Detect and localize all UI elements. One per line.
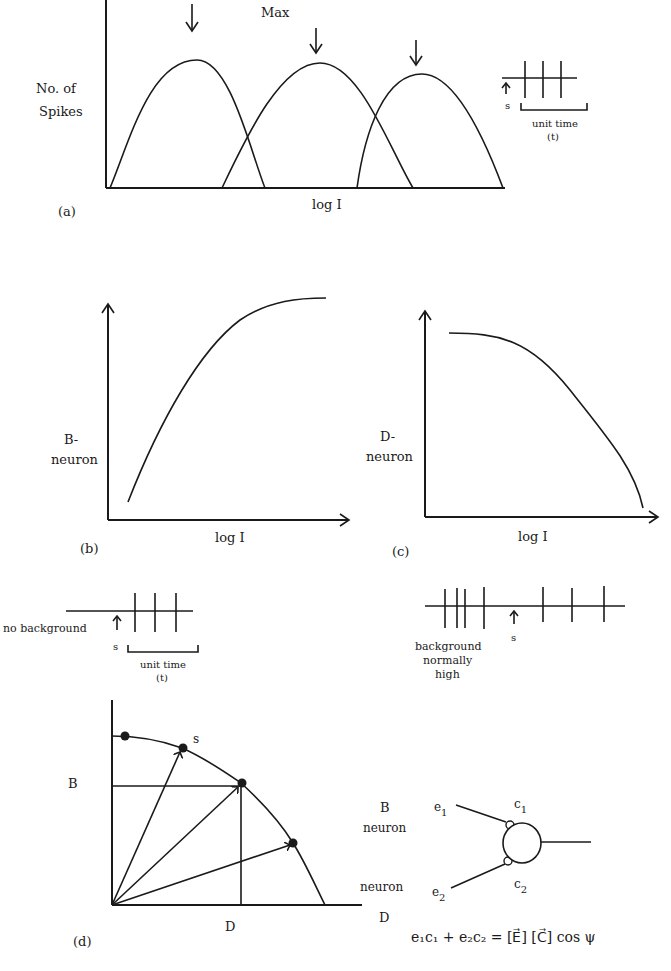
tuning-curve-2 — [222, 63, 413, 188]
max-arrow-1 — [186, 4, 198, 31]
unit-time-label: unit time — [140, 659, 186, 670]
panel-c: D- neuron log I (c) — [366, 311, 658, 559]
d-neuron-label-line2: neuron — [360, 880, 404, 894]
background-label-line3: high — [435, 668, 460, 681]
response-arc — [112, 736, 325, 905]
d-neuron-curve — [449, 333, 643, 508]
max-arrow-2 — [310, 28, 322, 53]
vector-arrow-low — [112, 845, 290, 905]
stimulus-label: s — [511, 632, 516, 643]
no-background-label: no background — [3, 622, 87, 635]
panel-b-caption: (b) — [80, 541, 98, 556]
d-neuron-label-line1: D — [379, 910, 389, 925]
neuron-schematic: B neuron D neuron e1 c1 c2 e2 e₁c₁ + e₂c… — [360, 797, 596, 945]
y-axis-label-line2: Spikes — [39, 104, 83, 119]
spike-train-high-background: s background normally high — [415, 586, 625, 681]
b-neuron-curve — [128, 298, 326, 502]
max-label: Max — [261, 5, 290, 20]
spike-train-no-background: no background s unit time (t) — [3, 593, 198, 683]
vector-arrow-mid — [112, 787, 238, 905]
input-line-e1 — [456, 805, 506, 822]
max-arrow-3 — [410, 40, 422, 65]
b-neuron-label-line2: neuron — [363, 821, 407, 835]
d-axis-label: D — [225, 919, 235, 934]
y-axis-label-line1: No. of — [36, 81, 77, 96]
unit-time-label: unit time — [532, 118, 578, 129]
panel-c-x-label: log I — [518, 529, 548, 544]
figure-canvas: Max No. of Spikes log I (a) s unit time … — [0, 0, 671, 971]
c1-label: c1 — [514, 797, 527, 815]
dot-product-equation: e₁c₁ + e₂c₂ = [E⃗] [C⃗] cos ψ — [411, 928, 596, 945]
x-axis-label: log I — [312, 197, 342, 212]
unit-time-bracket — [521, 103, 587, 110]
panel-c-caption: (c) — [392, 544, 409, 559]
unit-time-symbol: (t) — [156, 672, 168, 683]
tuning-curve-1 — [110, 60, 265, 188]
b-neuron-label-line1: B- — [64, 432, 78, 447]
stimulus-label: s — [505, 100, 510, 111]
data-point — [238, 779, 247, 788]
background-label-line2: normally — [423, 654, 473, 667]
point-s-label: s — [193, 732, 199, 746]
stimulus-label: s — [113, 641, 118, 652]
panel-b: B- neuron log I (b) — [51, 298, 349, 556]
tuning-curve-3 — [357, 74, 503, 188]
input-line-e2 — [451, 864, 505, 888]
b-neuron-label-line2: neuron — [51, 452, 98, 467]
data-point — [121, 732, 130, 741]
b-neuron-label-line1: B — [380, 800, 390, 815]
d-neuron-label-line1: D- — [380, 429, 395, 444]
spike-train-inset: s unit time (t) — [502, 61, 587, 142]
panel-a-caption: (a) — [58, 204, 76, 219]
panel-a: Max No. of Spikes log I (a) s unit time … — [36, 0, 587, 219]
panel-d: s B D (d) B neuron D neuron e1 c1 c2 e2 … — [68, 700, 596, 949]
background-label-line1: background — [415, 640, 482, 653]
unit-time-symbol: (t) — [547, 131, 559, 142]
d-neuron-label-line2: neuron — [366, 449, 413, 464]
neuron-body — [503, 823, 541, 863]
panel-d-caption: (d) — [73, 934, 91, 949]
e1-label: e1 — [434, 800, 447, 818]
stimulus-arrow-icon — [113, 616, 121, 630]
panel-b-x-label: log I — [215, 530, 245, 545]
data-point-s — [179, 744, 188, 753]
vector-arrow-s — [112, 752, 180, 905]
b-axis-label: B — [68, 776, 78, 791]
c2-label: c2 — [514, 877, 527, 895]
stimulus-arrow-icon — [510, 611, 518, 624]
e2-label: e2 — [432, 885, 445, 903]
stimulus-arrow-icon — [502, 83, 510, 94]
data-point — [289, 839, 298, 848]
unit-time-bracket — [128, 645, 198, 652]
